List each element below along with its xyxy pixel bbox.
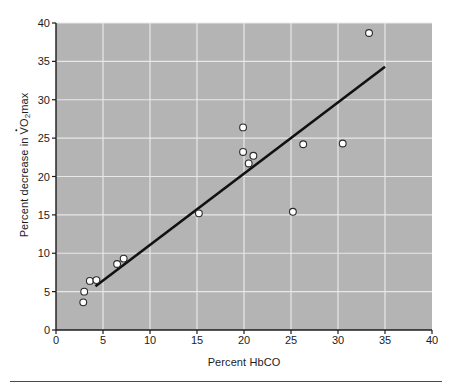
data-point xyxy=(289,208,296,215)
data-point xyxy=(366,30,373,37)
x-tick-label: 10 xyxy=(144,334,156,346)
data-point xyxy=(245,160,252,167)
x-tick-label: 20 xyxy=(238,334,250,346)
x-tick-label: 35 xyxy=(379,334,391,346)
x-axis-label: Percent HbCO xyxy=(56,352,432,370)
scatter-plot-figure: Percent decrease in VO2max Percent HbCO … xyxy=(0,0,453,391)
x-tick-label: 30 xyxy=(332,334,344,346)
x-tick-label: 5 xyxy=(100,334,106,346)
x-tick-label: 15 xyxy=(191,334,203,346)
data-point xyxy=(80,299,87,306)
data-point xyxy=(86,277,93,284)
footer-divider xyxy=(10,381,442,382)
data-point xyxy=(195,210,202,217)
data-point xyxy=(240,149,247,156)
data-point xyxy=(81,288,88,295)
data-point xyxy=(240,124,247,131)
data-point xyxy=(339,140,346,147)
data-point xyxy=(120,255,127,262)
data-point xyxy=(300,141,307,148)
data-point xyxy=(250,152,257,159)
data-point xyxy=(93,277,100,284)
x-tick-label: 0 xyxy=(53,334,59,346)
x-axis-label-text: Percent HbCO xyxy=(208,356,281,368)
data-point xyxy=(114,261,121,268)
plot-canvas xyxy=(0,0,453,391)
x-tick-label: 40 xyxy=(426,334,438,346)
x-tick-label: 25 xyxy=(285,334,297,346)
